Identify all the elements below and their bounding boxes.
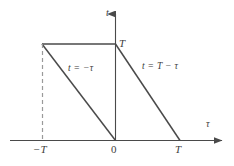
t-axis-label: t [106,8,109,18]
equation-label-left: t = −τ [68,64,93,74]
tick-label-tau-zero: 0 [111,144,117,155]
line-t-equals-T-minus-tau [116,44,181,141]
equation-label-right: t = T − τ [142,62,178,72]
tick-label-tau-T: T [175,144,181,155]
tau-axis-label: τ [206,119,210,129]
plot-canvas [0,0,234,166]
tick-label-tau-minus-T: −T [33,144,47,155]
line-t-equals-minus-tau [42,44,116,141]
tick-label-t-T: T [119,38,125,49]
figure-container: t τ T −T 0 T t = −τ t = T − τ [0,0,234,166]
